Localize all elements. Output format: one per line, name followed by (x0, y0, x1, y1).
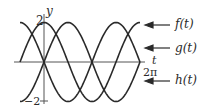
arrow-g-icon (145, 45, 170, 51)
arrow-f-icon (145, 22, 170, 28)
y-max-label: 2 (36, 15, 44, 27)
y-axis-label: y (46, 5, 53, 17)
y-min-label: −2 (24, 96, 40, 107)
legend-g: g(t) (175, 42, 197, 54)
legend-h: h(t) (175, 74, 197, 86)
legend-f: f(t) (175, 18, 194, 30)
t-axis-label: t (152, 55, 156, 66)
t-max-label: 2π (143, 67, 157, 78)
